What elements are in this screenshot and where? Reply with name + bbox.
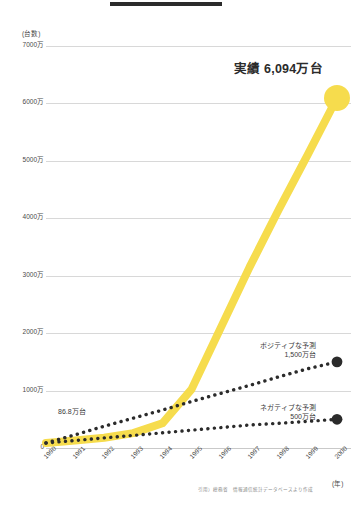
series-endpoint-marker-2 bbox=[332, 414, 343, 425]
annotation-positive-forecast: ポジティブな予測 1,500万台 bbox=[186, 342, 316, 360]
chart-container: (台数) 7000万6000万5000万4000万3000万2000万1000万… bbox=[0, 0, 357, 517]
negative-forecast-label: ネガティブな予測 bbox=[186, 404, 316, 413]
annotation-actual-value: 実績 6,094万台 bbox=[234, 62, 323, 78]
positive-forecast-value: 1,500万台 bbox=[186, 351, 316, 360]
series-endpoint-marker-0 bbox=[324, 85, 350, 111]
annotation-negative-forecast: ネガティブな予測 500万台 bbox=[186, 404, 316, 422]
source-citation: 引用）総務省 情報通信統計データベースより作成 bbox=[198, 486, 313, 492]
series-endpoint-marker-1 bbox=[332, 356, 343, 367]
negative-forecast-value: 500万台 bbox=[186, 413, 316, 422]
series-line-0 bbox=[46, 98, 337, 443]
series-line-1 bbox=[46, 362, 337, 443]
annotation-start-value: 86.8万台 bbox=[58, 408, 86, 417]
positive-forecast-label: ポジティブな予測 bbox=[186, 342, 316, 351]
